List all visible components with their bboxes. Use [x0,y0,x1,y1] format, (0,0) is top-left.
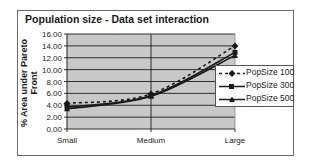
y-tick-label: 2.00 [46,113,62,122]
y-tick-label: 12.00 [42,54,63,63]
legend-item-popsize-500: PopSize 500 [218,93,294,106]
x-tick-label: Small [57,136,77,145]
x-tick-label: Medium [137,136,166,145]
solid-triangle-line-icon [218,95,246,104]
y-tick-label: 16.00 [42,30,63,39]
y-tick-label: 14.00 [42,42,63,51]
legend-label: PopSize 100 [246,67,294,77]
dashed-diamond-line-icon [218,69,246,78]
y-tick-label: 4.00 [46,101,62,110]
y-tick-label: 8.00 [46,78,62,87]
legend-item-popsize-100: PopSize 100 [218,67,294,80]
legend: PopSize 100 PopSize 300 PopSize 500 [215,65,294,107]
solid-square-line-icon [218,82,246,91]
legend-label: PopSize 500 [246,93,294,103]
y-tick-label: 6.00 [46,89,62,98]
y-tick-label: 10.00 [42,66,63,75]
legend-item-popsize-300: PopSize 300 [218,80,294,93]
y-tick-label: 0.00 [46,125,62,134]
legend-label: PopSize 300 [246,80,294,90]
x-tick-label: Large [225,136,246,145]
